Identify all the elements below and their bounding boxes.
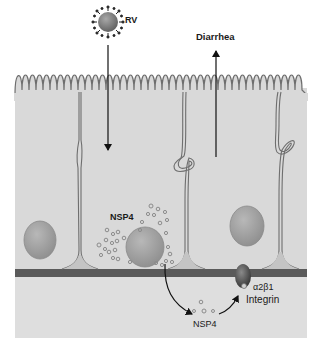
nsp4-intracellular-label: NSP4: [110, 213, 134, 222]
nsp4-secreted-label: NSP4: [193, 320, 217, 329]
diarrhea-label: Diarrhea: [196, 32, 235, 42]
left-cell-nucleus: [24, 221, 56, 259]
diagram-stage: RV Diarrhea NSP4 NSP4 α2β1 Integrin: [0, 0, 321, 347]
microvilli-brush-border: [14, 75, 308, 101]
integrin-alpha-beta-label: α2β1: [253, 283, 273, 292]
rotavirus-particle: [92, 6, 124, 38]
basement-membrane: [15, 269, 307, 277]
integrin-label: Integrin: [246, 295, 279, 305]
right-cell-nucleus: [230, 206, 264, 246]
virus-label: RV: [125, 16, 137, 25]
